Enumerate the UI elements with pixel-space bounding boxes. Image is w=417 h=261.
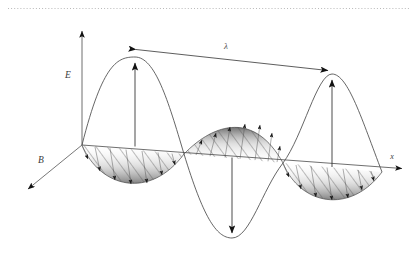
- wavelength-arrow: [136, 50, 328, 71]
- e-axis-label: E: [64, 70, 71, 80]
- b-axis-label: B: [38, 155, 44, 165]
- em-wave-figure: E B x λ: [0, 0, 417, 261]
- b-field-lobe-2: [184, 124, 283, 163]
- b-axis: [28, 145, 82, 189]
- b-field-lobe-1: [82, 145, 184, 184]
- b-field-lobe-3: [283, 163, 382, 200]
- wavelength-label: λ: [223, 41, 228, 51]
- em-wave-diagram: E B x λ: [0, 0, 417, 261]
- x-axis-label: x: [389, 152, 394, 161]
